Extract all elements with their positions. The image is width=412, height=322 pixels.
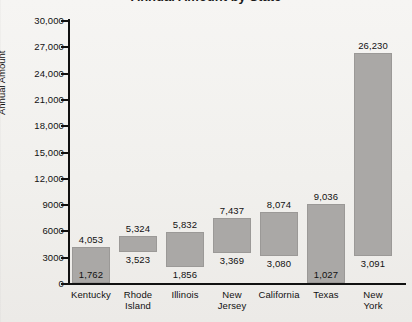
y-axis-tick [61, 46, 68, 48]
chart-page: Annual Amount by State 030006000900012,0… [0, 0, 412, 322]
bar-value-low: 1,856 [155, 269, 215, 280]
bar-value-low: 3,523 [108, 254, 168, 265]
bar-value-high: 5,832 [155, 219, 215, 230]
x-axis-line [68, 283, 406, 285]
x-axis-category-label: NewYork [343, 289, 403, 311]
y-axis-tick-label: 12,000 [34, 172, 64, 183]
category-label-line: Island [108, 300, 168, 311]
y-axis-title: Annual Amount [0, 0, 7, 115]
bar-value-low: 1,762 [61, 269, 121, 280]
bar-value-high: 4,053 [61, 234, 121, 245]
bar-value-low: 3,091 [343, 258, 403, 269]
y-axis-tick-label: 21,000 [34, 93, 64, 104]
bar-value-high: 26,230 [343, 40, 403, 51]
bar [260, 212, 298, 256]
y-axis-tick-label: 15,000 [34, 146, 64, 157]
category-label-line: York [343, 300, 403, 311]
bar [119, 236, 157, 252]
y-axis-tick [61, 152, 68, 154]
y-axis-tick [61, 20, 68, 22]
y-axis-tick [61, 73, 68, 75]
y-axis-tick-labels: 030006000900012,00015,00018,00021,00024,… [0, 0, 64, 322]
category-label-line: Jersey [202, 300, 262, 311]
y-axis-tick [61, 178, 68, 180]
y-axis-tick [61, 257, 68, 259]
category-label-line: New [343, 289, 403, 300]
bar [166, 232, 204, 267]
y-axis-tick [61, 99, 68, 101]
bar-value-low: 3,080 [249, 258, 309, 269]
bar [354, 53, 392, 256]
y-axis-tick [61, 204, 68, 206]
y-axis-tick-label: 27,000 [34, 41, 64, 52]
y-axis-tick-label: 18,000 [34, 120, 64, 131]
y-axis-tick-label: 24,000 [34, 67, 64, 78]
y-axis-tick-label: 30,000 [34, 15, 64, 26]
y-axis-tick [61, 283, 68, 285]
bar-value-low: 1,027 [296, 269, 356, 280]
y-axis-tick [61, 125, 68, 127]
bar [213, 218, 251, 254]
y-axis-tick [61, 230, 68, 232]
bar-value-high: 9,036 [296, 191, 356, 202]
